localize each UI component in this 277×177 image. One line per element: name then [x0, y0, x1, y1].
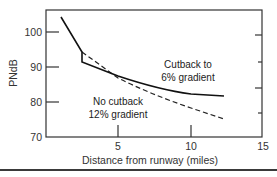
x-tick-label: 10 — [185, 140, 197, 152]
annotation-no-cutback: 12% gradient — [89, 109, 148, 120]
bottom-rule — [0, 169, 277, 171]
annotation-cutback: Cutback to — [164, 59, 212, 70]
x-axis-title: Distance from runway (miles) — [82, 154, 218, 166]
x-axis-ticks — [118, 125, 191, 137]
annotation-cutback: 6% gradient — [161, 72, 215, 83]
x-tick-label: 5 — [115, 140, 121, 152]
y-tick-label: 90 — [30, 61, 42, 73]
x-tick-label: 15 — [257, 140, 269, 152]
y-tick-label: 100 — [24, 26, 42, 38]
series-cutback-line — [61, 17, 224, 96]
y-tick-label: 80 — [30, 96, 42, 108]
y-axis-title: PNdB — [7, 59, 19, 86]
y-tick-label: 70 — [30, 131, 42, 143]
noise-chart: 100 90 80 70 5 10 15 PNdB Distance from … — [0, 0, 277, 177]
annotation-no-cutback: No cutback — [93, 96, 144, 107]
y-axis-ticks — [46, 32, 59, 102]
plot-frame — [46, 10, 262, 137]
right-axis-ticks — [255, 35, 262, 113]
